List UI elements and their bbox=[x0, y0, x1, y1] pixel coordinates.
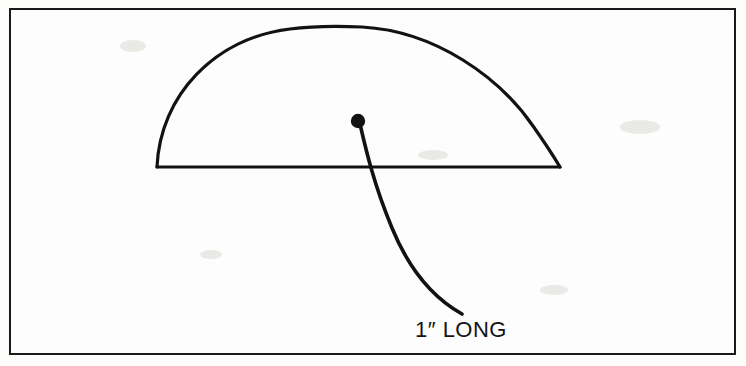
figure-frame-border bbox=[9, 8, 736, 355]
figure-page: 1″ LONG bbox=[0, 0, 746, 366]
dimension-label: 1″ LONG bbox=[415, 317, 507, 343]
